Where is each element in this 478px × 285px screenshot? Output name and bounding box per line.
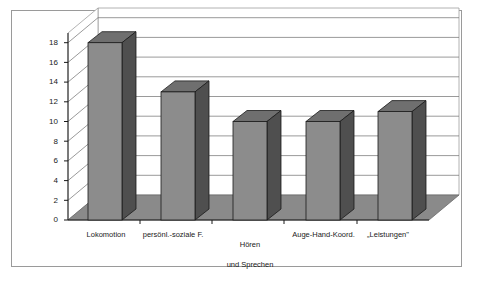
- bar-front-face: [233, 122, 267, 221]
- bar-front-face: [378, 112, 412, 220]
- bar-side-face: [340, 111, 354, 221]
- bar-front-face: [88, 43, 122, 220]
- y-tick-label-18: 18: [40, 38, 58, 47]
- chart-figure: 18 16 14 12 10 8 6 4 2 0 Lokomotion pers…: [0, 0, 478, 285]
- y-tick-label-6: 6: [40, 156, 58, 165]
- y-tick-label-8: 8: [40, 137, 58, 146]
- bar-side-face: [412, 101, 426, 220]
- x-category-label-leistungen: „Leistungen": [348, 230, 428, 240]
- y-tick-label-2: 2: [40, 196, 58, 205]
- y-tick-label-10: 10: [40, 117, 58, 126]
- bar-side-face: [267, 111, 281, 221]
- y-tick-label-14: 14: [40, 77, 58, 86]
- x-category-label-hoeren-line1: Hören: [240, 240, 260, 249]
- bar-persoenl-soziale-f[interactable]: [161, 81, 209, 220]
- y-tick-label-0: 0: [40, 215, 58, 224]
- bar-hoeren-und-sprechen[interactable]: [233, 111, 281, 221]
- bar-leistungen[interactable]: [378, 101, 426, 220]
- x-category-label-hoeren-line2: und Sprechen: [227, 260, 274, 269]
- bar-side-face: [122, 32, 136, 220]
- y-tick-label-16: 16: [40, 58, 58, 67]
- y-tick-label-4: 4: [40, 176, 58, 185]
- bar-front-face: [161, 92, 195, 220]
- bar-lokomotion[interactable]: [88, 32, 136, 220]
- bar-side-face: [195, 81, 209, 220]
- y-tick-label-12: 12: [40, 97, 58, 106]
- bar-front-face: [306, 122, 340, 221]
- bar-auge-hand-koord[interactable]: [306, 111, 354, 221]
